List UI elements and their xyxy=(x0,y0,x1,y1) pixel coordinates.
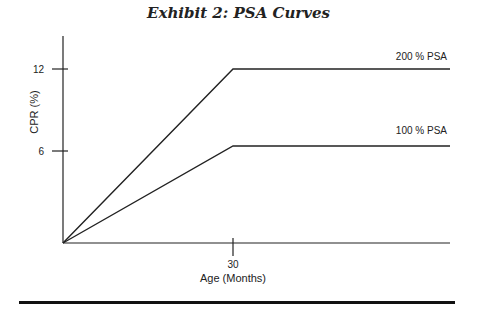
bottom-rule xyxy=(19,301,455,304)
series-100-psa-line xyxy=(63,146,450,243)
y-tick-label-12: 12 xyxy=(33,64,45,75)
x-tick-label-30: 30 xyxy=(227,259,239,270)
psa-chart: 12 6 30 Age (Months) CPR (%) 200 % PSA 1… xyxy=(0,0,477,315)
x-axis-label: Age (Months) xyxy=(200,272,266,284)
y-tick-label-6: 6 xyxy=(38,146,44,157)
series-200-psa-line xyxy=(63,69,450,243)
y-axis-label: CPR (%) xyxy=(28,90,40,133)
series-200-psa-label: 200 % PSA xyxy=(396,51,447,62)
series-100-psa-label: 100 % PSA xyxy=(396,125,447,136)
